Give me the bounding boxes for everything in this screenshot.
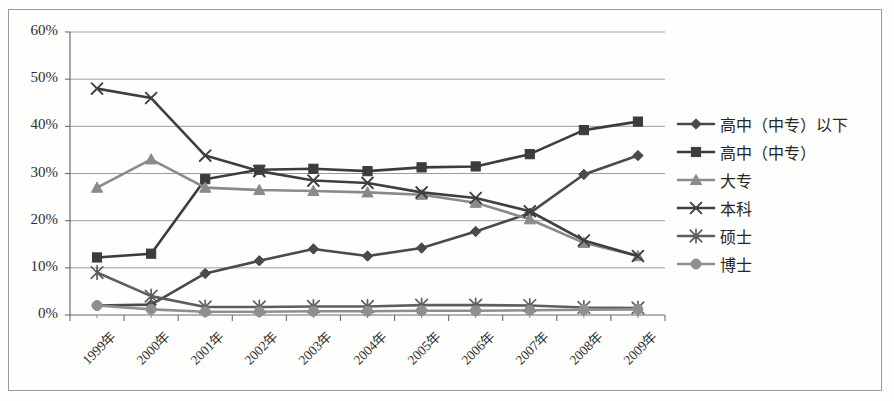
- data-point-marker: [309, 164, 318, 173]
- legend-item[interactable]: 博士: [676, 250, 888, 278]
- data-point-marker: [363, 306, 373, 316]
- data-point-marker: [363, 167, 372, 176]
- data-point-marker: [691, 259, 701, 269]
- series-layer: [91, 83, 644, 316]
- data-point-marker: [362, 251, 372, 261]
- data-point-marker: [308, 244, 318, 254]
- legend-item[interactable]: 本科: [676, 194, 888, 222]
- legend-marker-x-icon: [676, 199, 716, 217]
- data-point-marker: [200, 268, 210, 278]
- legend-item[interactable]: 高中（中专）以下: [676, 110, 888, 138]
- data-point-marker: [254, 307, 264, 317]
- data-point-marker: [92, 301, 102, 311]
- data-point-marker: [471, 162, 480, 171]
- legend-marker-circle-icon: [676, 255, 716, 273]
- y-axis-tick-label: 0%: [14, 305, 58, 322]
- y-axis-tick-label: 60%: [14, 22, 58, 39]
- data-point-marker: [633, 304, 643, 314]
- data-point-marker: [416, 243, 426, 253]
- data-point-marker: [308, 306, 318, 316]
- y-axis-tick-label: 40%: [14, 116, 58, 133]
- data-point-marker: [525, 305, 535, 315]
- data-point-marker: [633, 150, 643, 160]
- legend-marker-asterisk-icon: [676, 227, 716, 245]
- legend-marker-diamond-icon: [676, 115, 716, 133]
- data-point-marker: [471, 306, 481, 316]
- legend-item-label: 高中（中专）: [716, 140, 816, 164]
- y-axis-tick-label: 30%: [14, 164, 58, 181]
- legend-item-label: 博士: [716, 252, 752, 276]
- chart-page: 0%10%20%30%40%50%60% 1999年2000年2001年2002…: [0, 0, 894, 401]
- data-point-marker: [254, 256, 264, 266]
- y-axis-ticks: [65, 32, 70, 315]
- legend-item-label: 大专: [716, 168, 752, 192]
- y-axis-tick-label: 50%: [14, 69, 58, 86]
- data-point-marker: [633, 117, 642, 126]
- legend-item-label: 高中（中专）以下: [716, 112, 848, 136]
- legend-item-label: 硕士: [716, 224, 752, 248]
- data-point-marker: [146, 304, 156, 314]
- data-point-marker: [691, 147, 700, 156]
- y-axis-tick-label: 20%: [14, 211, 58, 228]
- y-axis-tick-label: 10%: [14, 258, 58, 275]
- legend-item-label: 本科: [716, 196, 752, 220]
- data-point-marker: [91, 266, 103, 279]
- data-point-marker: [579, 126, 588, 135]
- legend-item[interactable]: 大专: [676, 166, 888, 194]
- data-point-marker: [417, 163, 426, 172]
- chart-legend: 高中（中专）以下高中（中专）大专本科硕士博士: [676, 110, 888, 278]
- legend-marker-square-icon: [676, 143, 716, 161]
- data-point-marker: [525, 150, 534, 159]
- legend-marker-triangle-icon: [676, 171, 716, 189]
- data-point-marker: [691, 119, 701, 129]
- data-point-marker: [146, 154, 157, 164]
- data-point-marker: [200, 307, 210, 317]
- data-point-marker: [91, 182, 102, 192]
- data-point-marker: [579, 305, 589, 315]
- data-point-marker: [147, 249, 156, 258]
- data-point-marker: [92, 253, 101, 262]
- legend-item[interactable]: 高中（中专）: [676, 138, 888, 166]
- legend-item[interactable]: 硕士: [676, 222, 888, 250]
- data-point-marker: [470, 226, 480, 236]
- data-point-marker: [417, 306, 427, 316]
